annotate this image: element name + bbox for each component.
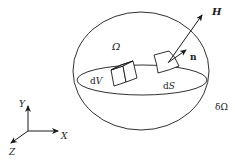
- coordinate-axes: [11, 106, 58, 143]
- label-surface-element: dS: [163, 81, 175, 91]
- axis-label-y: Y: [19, 99, 26, 109]
- label-surface-element-s: S: [169, 81, 175, 91]
- z-axis-arrow: [11, 131, 28, 143]
- vector-field-arrow-H: [168, 15, 202, 63]
- label-volume-element-v: V: [96, 76, 104, 86]
- label-domain-omega: Ω: [111, 41, 120, 52]
- label-vector-field-H: H: [211, 6, 222, 17]
- surface-element-patch-icon: [154, 51, 179, 73]
- axis-label-x: X: [60, 131, 68, 141]
- volume-element-cube-icon: [111, 61, 137, 86]
- axis-label-z: Z: [8, 147, 16, 157]
- label-volume-element: dV: [90, 76, 104, 86]
- label-boundary-delta-omega: δΩ: [215, 102, 228, 112]
- diagram-canvas: H n Ω δΩ dV dS Y X Z: [0, 0, 235, 161]
- label-normal-n: n: [190, 52, 197, 62]
- domain-boundary-sphere: [73, 12, 209, 130]
